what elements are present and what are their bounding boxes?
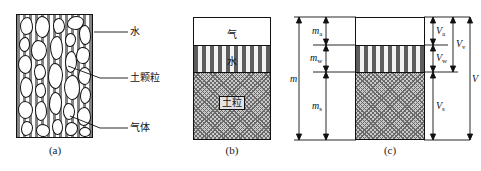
air-layer-label: 气 (194, 26, 270, 41)
dim-label-volume-water: Vw (436, 52, 447, 63)
dim-label-volume-void: Vv (456, 38, 466, 49)
dim-label-total-mass: m (290, 73, 297, 84)
dim-label-mass-solid: ms (312, 100, 322, 111)
panel-c-dimensioned-block: m ma mw ms Va Vw Vv Vs V (c) (280, 0, 481, 171)
solid-layer-label: 土粒 (219, 96, 245, 110)
dim-label-volume-solid: Vs (436, 100, 445, 111)
dim-label-volume-air: Va (436, 25, 445, 36)
water-layer-label: 水 (194, 53, 270, 68)
label-soil-particle: 土颗粒 (130, 72, 160, 84)
air-water-boundary (194, 45, 270, 46)
caption-a: (a) (35, 144, 75, 156)
water-solid-boundary (194, 72, 270, 73)
dim-label-mass-water: mw (310, 52, 322, 63)
soil-three-phase-figure: 水 土颗粒 气体 (a) 气 水 土粒 (b) (0, 0, 481, 171)
caption-b: (b) (212, 144, 252, 156)
panel-b-idealized-block: 气 水 土粒 (b) (160, 0, 280, 171)
caption-c: (c) (370, 144, 410, 156)
label-gas: 气体 (130, 122, 150, 134)
dim-label-mass-air: ma (312, 25, 322, 36)
dim-label-total-volume: V (472, 73, 478, 84)
solid-layer-label-wrap: 土粒 (194, 96, 270, 110)
panel-a-real-soil: 水 土颗粒 气体 (a) (0, 0, 160, 171)
label-water: 水 (130, 26, 140, 38)
three-phase-block: 气 水 土粒 (193, 17, 271, 140)
